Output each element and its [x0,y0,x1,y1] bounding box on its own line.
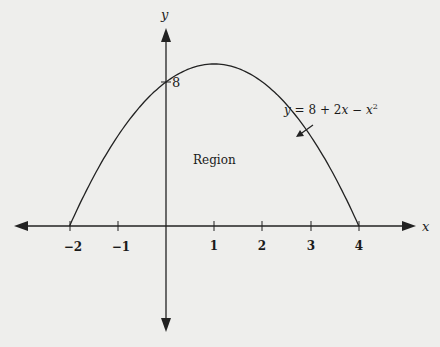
parabola-chart: x y 8 −2 −1 1 2 3 4 Region y = 8 + 2x − … [0,0,440,347]
x-tick-label: 3 [307,239,315,253]
x-axis-label: x [422,219,430,234]
x-tick-label: 1 [210,239,218,253]
y-axis-down-arrow-icon [161,318,171,332]
x-tick-label: −1 [112,240,130,254]
annotation-arrowhead-icon [296,130,304,137]
x-tick-label: −2 [64,240,82,254]
x-tick-label: 2 [258,239,266,253]
y-axis-label: y [160,7,169,22]
equation-label: y = 8 + 2x − x2 [283,102,378,117]
x-tick-label: 4 [355,239,363,253]
parabola-curve [70,64,359,226]
x-axis-right-arrow-icon [402,221,416,231]
region-label: Region [193,153,236,167]
x-axis-left-arrow-icon [14,221,28,231]
y-axis-up-arrow-icon [161,28,171,42]
